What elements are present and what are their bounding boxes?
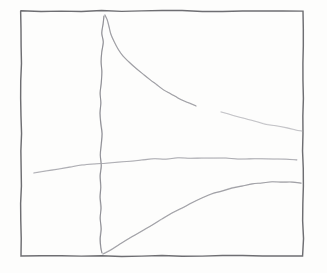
paper-background: [0, 0, 327, 273]
sketch-page: [0, 0, 327, 273]
plot-sketch-canvas: [0, 0, 327, 273]
